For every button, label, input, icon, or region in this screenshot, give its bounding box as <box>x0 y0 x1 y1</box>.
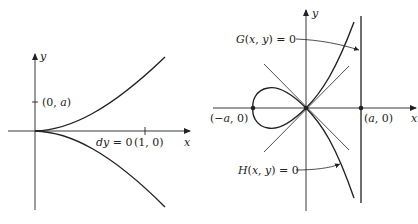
right-figure: y G(x, y) = 0 (−a, 0) (a, 0) x H(x, y) =… <box>210 7 418 211</box>
point-label-10: (1, 0) <box>134 136 164 149</box>
left-x-label: x <box>184 136 191 149</box>
annotation-dy0: dy = 0 <box>96 136 132 149</box>
left-y-label: y <box>39 50 47 63</box>
curve-upper-branch <box>35 57 165 131</box>
leader-arrow-G <box>296 39 359 50</box>
label-H: H(x, y) = 0 <box>237 164 299 177</box>
point-label-neg-a0: (−a, 0) <box>210 112 248 125</box>
right-y-label: y <box>311 7 319 20</box>
leader-arrow-H <box>296 164 340 170</box>
point-a0 <box>359 106 364 111</box>
curve-branch-H <box>306 108 354 198</box>
point-label-a0: (a, 0) <box>364 112 393 125</box>
left-figure: y (0, a) dy = 0 (1, 0) x <box>8 50 191 210</box>
point-neg-a0 <box>251 106 256 111</box>
label-G: G(x, y) = 0 <box>236 33 296 46</box>
point-origin <box>304 106 309 111</box>
point-label-0a: (0, a) <box>42 96 71 109</box>
figure-canvas: y (0, a) dy = 0 (1, 0) x y G(x, y) = 0 (… <box>0 0 418 224</box>
curve-branch-G <box>306 22 354 108</box>
right-x-label: x <box>411 112 418 125</box>
